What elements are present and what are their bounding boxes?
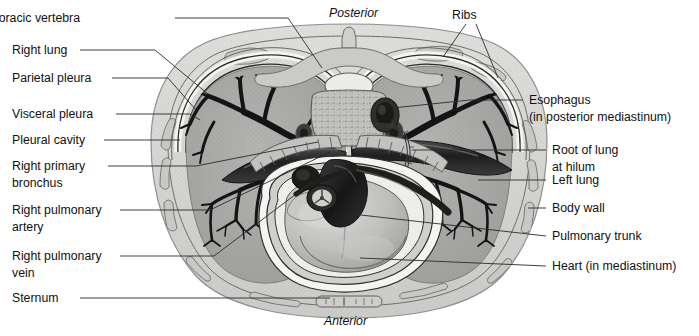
orientation-label-anterior: Anterior xyxy=(324,314,367,329)
figure-canvas: Posterior Anterior Ribs Thoracic vertebr… xyxy=(0,0,699,336)
label-body-wall: Body wall xyxy=(552,201,605,216)
esophagus xyxy=(371,98,399,132)
label-thoracic-vertebra: Thoracic vertebra xyxy=(0,11,80,26)
superior-vena-cava xyxy=(307,185,337,211)
label-sternum: Sternum xyxy=(12,291,58,306)
label-pulmonary-trunk: Pulmonary trunk xyxy=(552,229,642,244)
orientation-label-posterior: Posterior xyxy=(329,6,378,21)
label-left-lung: Left lung xyxy=(552,173,599,188)
label-visceral-pleura: Visceral pleura xyxy=(12,107,93,122)
label-parietal-pleura: Parietal pleura xyxy=(12,71,91,86)
label-pleural-cavity: Pleural cavity xyxy=(12,133,85,148)
label-right-lung: Right lung xyxy=(12,43,67,58)
label-heart: Heart (in mediastinum) xyxy=(552,259,676,274)
label-ribs: Ribs xyxy=(452,8,477,23)
